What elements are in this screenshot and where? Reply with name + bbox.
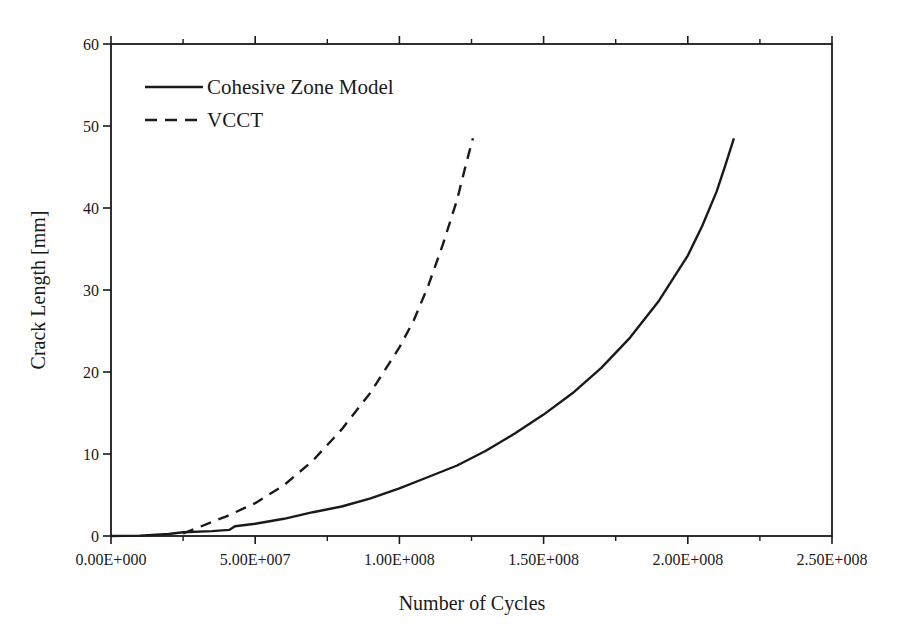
legend-label-vcct: VCCT bbox=[207, 108, 263, 132]
x-tick-label: 1.00E+008 bbox=[364, 551, 435, 568]
y-tick-label: 40 bbox=[83, 200, 99, 217]
x-axis-title: Number of Cycles bbox=[399, 592, 546, 615]
x-tick-label: 2.50E+008 bbox=[797, 551, 868, 568]
x-axis: 0.00E+0005.00E+0071.00E+0081.50E+0082.00… bbox=[76, 36, 868, 568]
y-tick-label: 60 bbox=[83, 36, 99, 53]
legend: Cohesive Zone Model VCCT bbox=[145, 75, 394, 132]
y-tick-label: 0 bbox=[91, 528, 99, 545]
x-tick-label: 2.00E+008 bbox=[652, 551, 723, 568]
x-tick-label: 1.50E+008 bbox=[508, 551, 579, 568]
series-cohesive-zone-model bbox=[111, 138, 734, 536]
series-vcct bbox=[183, 138, 473, 533]
legend-label-cohesive-zone-model: Cohesive Zone Model bbox=[207, 75, 394, 99]
y-tick-label: 30 bbox=[83, 282, 99, 299]
x-tick-label: 0.00E+000 bbox=[76, 551, 147, 568]
y-axis-title: Crack Length [mm] bbox=[27, 211, 50, 370]
y-tick-label: 50 bbox=[83, 118, 99, 135]
series-layer bbox=[111, 138, 734, 536]
crack-growth-chart: 0.00E+0005.00E+0071.00E+0081.50E+0082.00… bbox=[0, 0, 902, 641]
x-tick-label: 5.00E+007 bbox=[220, 551, 291, 568]
y-axis: 0102030405060 bbox=[83, 36, 111, 545]
y-tick-label: 20 bbox=[83, 364, 99, 381]
y-tick-label: 10 bbox=[83, 446, 99, 463]
